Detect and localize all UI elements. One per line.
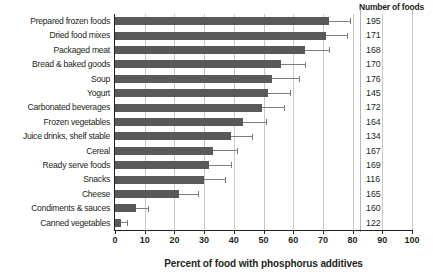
- bar: [115, 132, 231, 140]
- x-tick-60: [293, 230, 294, 234]
- error-bar: [305, 50, 329, 51]
- number-of-foods-value: 134: [366, 129, 410, 143]
- bar: [115, 46, 305, 54]
- number-of-foods-value: 169: [366, 158, 410, 172]
- chart-row: Cheese165: [0, 187, 433, 201]
- chart-row: Prepared frozen foods195: [0, 14, 433, 28]
- number-of-foods-value: 170: [366, 57, 410, 71]
- x-axis-title: Percent of food with phosphorus additive…: [115, 258, 412, 269]
- error-bar-cap: [231, 162, 232, 168]
- number-of-foods-value: 167: [366, 144, 410, 158]
- bar: [115, 118, 243, 126]
- x-tick-label-20: 20: [161, 235, 187, 245]
- error-bar: [204, 179, 225, 180]
- x-tick-label-30: 30: [191, 235, 217, 245]
- x-tick-label-50: 50: [251, 235, 277, 245]
- error-bar-cap: [350, 18, 351, 24]
- category-label: Ready serve foods: [0, 158, 110, 172]
- x-tick-label-80: 80: [340, 235, 366, 245]
- x-tick-label-10: 10: [132, 235, 158, 245]
- x-tick-80: [353, 230, 354, 234]
- error-bar: [281, 64, 305, 65]
- error-bar: [213, 150, 237, 151]
- error-bar-cap: [148, 206, 149, 212]
- bar: [115, 147, 213, 155]
- bar: [115, 190, 179, 198]
- number-of-foods-value: 176: [366, 72, 410, 86]
- x-tick-label-100: 100: [399, 235, 425, 245]
- error-bar-cap: [329, 47, 330, 53]
- error-bar: [268, 93, 290, 94]
- category-label: Cereal: [0, 144, 110, 158]
- category-label: Frozen vegetables: [0, 115, 110, 129]
- chart-row: Dried food mixes171: [0, 28, 433, 42]
- number-of-foods-value: 195: [366, 14, 410, 28]
- error-bar-cap: [225, 177, 226, 183]
- category-label: Bread & baked goods: [0, 57, 110, 71]
- error-bar-cap: [252, 134, 253, 140]
- error-bar: [231, 136, 252, 137]
- error-bar: [179, 194, 198, 195]
- category-label: Condiments & sauces: [0, 201, 110, 215]
- x-tick-0: [115, 230, 116, 234]
- error-bar: [272, 78, 299, 79]
- bar: [115, 104, 262, 112]
- chart-row: Carbonated beverages172: [0, 100, 433, 114]
- number-of-foods-header: Number of foods: [350, 2, 433, 12]
- bar: [115, 176, 204, 184]
- error-bar-cap: [299, 76, 300, 82]
- error-bar: [329, 21, 350, 22]
- phosphorus-additives-bar-chart: Number of foods Prepared frozen foods195…: [0, 0, 433, 279]
- error-bar: [262, 107, 284, 108]
- chart-row: Frozen vegetables164: [0, 115, 433, 129]
- error-bar-cap: [284, 105, 285, 111]
- chart-row: Canned vegetables122: [0, 216, 433, 230]
- x-tick-label-60: 60: [280, 235, 306, 245]
- category-label: Carbonated beverages: [0, 100, 110, 114]
- category-label: Juice drinks, shelf stable: [0, 129, 110, 143]
- error-bar-cap: [305, 62, 306, 68]
- bar: [115, 204, 136, 212]
- chart-row: Snacks116: [0, 172, 433, 186]
- error-bar: [243, 122, 267, 123]
- number-of-foods-value: 122: [366, 216, 410, 230]
- error-bar-cap: [237, 148, 238, 154]
- chart-row: Yogurt145: [0, 86, 433, 100]
- bar: [115, 89, 268, 97]
- number-of-foods-value: 171: [366, 28, 410, 42]
- error-bar: [136, 208, 148, 209]
- category-label: Cheese: [0, 187, 110, 201]
- x-tick-100: [412, 230, 413, 234]
- chart-row: Juice drinks, shelf stable134: [0, 129, 433, 143]
- x-tick-label-70: 70: [310, 235, 336, 245]
- number-of-foods-value: 172: [366, 100, 410, 114]
- error-bar: [326, 35, 347, 36]
- chart-row: Condiments & sauces160: [0, 201, 433, 215]
- chart-row: Ready serve foods169: [0, 158, 433, 172]
- error-bar-cap: [290, 90, 291, 96]
- x-tick-label-90: 90: [369, 235, 395, 245]
- bar: [115, 60, 281, 68]
- number-of-foods-value: 168: [366, 43, 410, 57]
- category-label: Canned vegetables: [0, 216, 110, 230]
- number-of-foods-value: 165: [366, 187, 410, 201]
- number-of-foods-value: 145: [366, 86, 410, 100]
- error-bar: [209, 165, 231, 166]
- bar: [115, 75, 272, 83]
- x-tick-20: [174, 230, 175, 234]
- x-tick-40: [234, 230, 235, 234]
- x-tick-label-0: 0: [102, 235, 128, 245]
- x-tick-70: [323, 230, 324, 234]
- category-label: Packaged meat: [0, 43, 110, 57]
- x-tick-90: [382, 230, 383, 234]
- bar: [115, 17, 329, 25]
- chart-row: Packaged meat168: [0, 43, 433, 57]
- number-of-foods-value: 160: [366, 201, 410, 215]
- category-label: Prepared frozen foods: [0, 14, 110, 28]
- category-label: Soup: [0, 72, 110, 86]
- bar: [115, 161, 209, 169]
- x-tick-30: [204, 230, 205, 234]
- error-bar-cap: [266, 119, 267, 125]
- x-tick-50: [264, 230, 265, 234]
- x-tick-10: [145, 230, 146, 234]
